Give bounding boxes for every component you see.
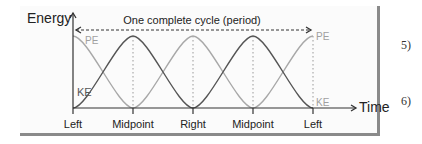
pe-end-label: PE bbox=[316, 31, 330, 42]
y-axis-label: Energy bbox=[27, 10, 71, 26]
ke-end-label: KE bbox=[316, 97, 330, 108]
tick-label-midpoint-2: Midpoint bbox=[232, 118, 274, 130]
energy-time-diagram: Energy Time One complete cycle (period) … bbox=[0, 0, 422, 144]
question-number-6: 6) bbox=[401, 94, 411, 109]
x-axis-label: Time bbox=[359, 99, 390, 115]
pe-start-label: PE bbox=[85, 35, 99, 46]
ke-start-label: KE bbox=[77, 86, 92, 98]
question-number-5: 5) bbox=[401, 38, 411, 53]
x-ticks bbox=[73, 108, 313, 114]
tick-label-midpoint-1: Midpoint bbox=[112, 118, 154, 130]
x-tick-labels: Left Midpoint Right Midpoint Left bbox=[64, 118, 322, 130]
tick-label-left-start: Left bbox=[64, 118, 82, 130]
tick-label-left-end: Left bbox=[304, 118, 322, 130]
tick-label-right: Right bbox=[180, 118, 206, 130]
period-label: One complete cycle (period) bbox=[123, 14, 261, 26]
